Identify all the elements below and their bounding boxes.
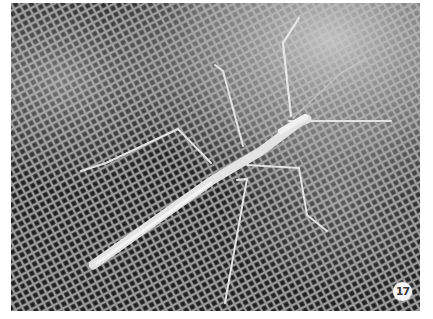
stick-insect-photo xyxy=(11,3,420,311)
figure-number-badge: 17 xyxy=(393,282,412,301)
figure-number: 17 xyxy=(396,285,409,298)
light-haze-right xyxy=(11,3,420,311)
photo xyxy=(11,3,420,311)
